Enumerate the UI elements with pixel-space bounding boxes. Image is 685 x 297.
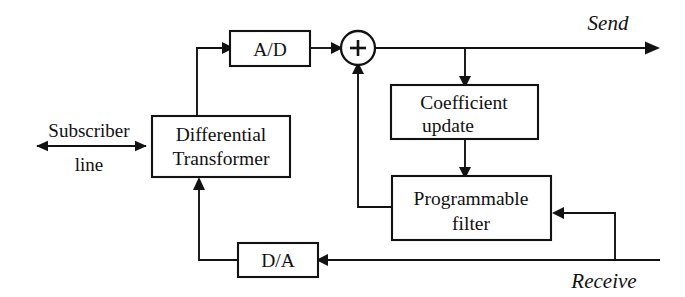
echo-canceller-diagram: Differential Transformer A/D Coefficient… [0, 0, 685, 297]
wire-receive-input [316, 254, 660, 266]
wire-da-to-transformer [193, 177, 238, 260]
subscriber-line-label-line2: line [75, 154, 104, 175]
label-subscriber-line: Subscriber line [48, 120, 130, 175]
programmable-filter-label-line2: filter [452, 213, 490, 234]
coefficient-update-label-line2: update [422, 115, 474, 136]
wire-sum-to-send [375, 42, 660, 55]
transformer-to-ad-path [197, 48, 222, 116]
wire-receive-to-filter [552, 207, 615, 260]
programmable-filter-label-line1: Programmable [414, 188, 529, 209]
da-to-transformer-path [199, 190, 238, 260]
subscriber-line-label-line1: Subscriber [48, 120, 130, 141]
wire-filter-to-sum [352, 62, 392, 207]
ad-converter-label: A/D [253, 39, 287, 60]
wire-send-to-coefficient [459, 48, 471, 88]
block-programmable-filter[interactable]: Programmable filter [392, 176, 551, 240]
da-converter-label: D/A [261, 250, 295, 271]
differential-transformer-label-line2: Transformer [173, 148, 270, 169]
summing-junction[interactable] [341, 31, 375, 65]
wire-ad-to-sum [310, 42, 343, 54]
block-differential-transformer[interactable]: Differential Transformer [152, 116, 290, 177]
block-coefficient-update[interactable]: Coefficient update [391, 85, 538, 139]
wire-transformer-to-ad [197, 42, 234, 116]
differential-transformer-label-line1: Differential [176, 124, 267, 145]
receive-label: Receive [570, 269, 636, 293]
send-label: Send [588, 11, 629, 35]
wire-coefficient-to-filter [459, 139, 471, 179]
send-output-arrowhead [645, 42, 660, 55]
coefficient-update-label-line1: Coefficient [420, 92, 508, 113]
block-da-converter[interactable]: D/A [238, 243, 318, 277]
receive-to-filter-path [563, 213, 615, 260]
block-diagram-canvas: Differential Transformer A/D Coefficient… [0, 0, 685, 297]
filter-to-sum-path [358, 74, 392, 207]
da-to-transformer-arrowhead [193, 177, 205, 190]
receive-to-filter-arrowhead [552, 207, 564, 219]
block-ad-converter[interactable]: A/D [230, 31, 310, 66]
